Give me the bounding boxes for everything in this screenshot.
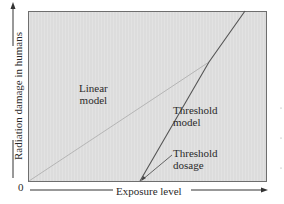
margin-speck: [280, 167, 281, 168]
chart-lines: [0, 0, 284, 204]
threshold-model-label: Threshold model: [173, 104, 218, 128]
threshold-dosage-label: Threshold dosage: [173, 147, 218, 171]
y-axis-arrowhead-icon: [11, 2, 16, 9]
chart: Linear model Threshold model Threshold d…: [0, 0, 284, 204]
threshold-model-label-line1: Threshold: [173, 104, 218, 116]
x-axis-label: Exposure level: [116, 185, 182, 197]
x-axis-arrowhead-icon: [261, 188, 268, 193]
y-axis-label: Radiation damage in humans: [12, 16, 24, 176]
threshold-dosage-label-line2: dosage: [173, 159, 218, 171]
linear-model-label-line2: model: [79, 94, 108, 106]
linear-model-label-line1: Linear: [79, 82, 108, 94]
threshold-model-label-line2: model: [173, 116, 218, 128]
threshold-dosage-label-line1: Threshold: [173, 147, 218, 159]
threshold-dosage-pointer: [142, 155, 172, 180]
linear-model-label: Linear model: [79, 82, 108, 106]
origin-label: 0: [18, 181, 24, 193]
margin-speck: [280, 107, 281, 108]
margin-speck: [280, 137, 281, 138]
